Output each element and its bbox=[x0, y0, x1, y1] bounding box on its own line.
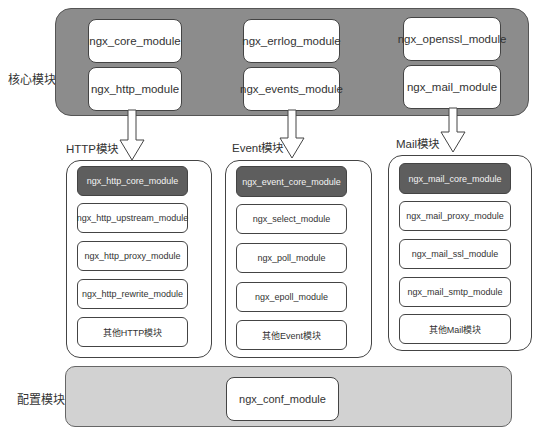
http-core-module-box: ngx_http_core_module bbox=[77, 166, 188, 196]
epoll-module-box: ngx_epoll_module bbox=[236, 282, 347, 312]
mail-other-modules-box: 其他Mail模块 bbox=[399, 314, 511, 344]
http-rewrite-module-box: ngx_http_rewrite_module bbox=[77, 279, 188, 309]
errlog-module-box: ngx_errlog_module bbox=[243, 19, 340, 63]
mail-smtp-module-box: ngx_mail_smtp_module bbox=[399, 277, 511, 307]
http-upstream-module-box: ngx_http_upstream_module bbox=[77, 203, 188, 233]
http-other-modules-box: 其他HTTP模块 bbox=[77, 317, 188, 347]
mail-core-module-box: ngx_mail_core_module bbox=[399, 163, 511, 194]
event-core-module-box: ngx_event_core_module bbox=[236, 166, 347, 197]
events-module-box: ngx_events_module bbox=[243, 67, 340, 111]
mail-ssl-module-box: ngx_mail_ssl_module bbox=[399, 239, 511, 269]
mail-module-box: ngx_mail_module bbox=[403, 65, 501, 109]
event-group-label: Event模块 bbox=[232, 139, 283, 155]
http-group-label: HTTP模块 bbox=[66, 140, 118, 156]
poll-module-box: ngx_poll_module bbox=[236, 243, 347, 273]
mail-proxy-module-box: ngx_mail_proxy_module bbox=[399, 201, 511, 231]
config-modules-label: 配置模块 bbox=[17, 390, 65, 407]
event-other-modules-box: 其他Event模块 bbox=[236, 320, 347, 350]
core-module-box: ngx_core_module bbox=[88, 19, 182, 63]
core-modules-label: 核心模块 bbox=[8, 70, 56, 87]
http-module-box: ngx_http_module bbox=[88, 67, 182, 111]
openssl-module-box: ngx_openssl_module bbox=[403, 17, 501, 61]
conf-module-box: ngx_conf_module bbox=[226, 377, 339, 421]
mail-group-label: Mail模块 bbox=[396, 135, 439, 151]
arrow-down-icon-mail bbox=[439, 108, 467, 154]
select-module-box: ngx_select_module bbox=[236, 204, 347, 234]
arrow-down-icon-http bbox=[118, 110, 146, 162]
http-proxy-module-box: ngx_http_proxy_module bbox=[77, 241, 188, 271]
